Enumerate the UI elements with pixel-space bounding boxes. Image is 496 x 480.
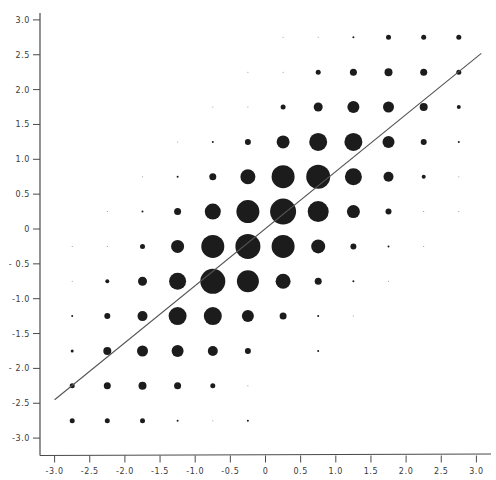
data-point bbox=[277, 135, 290, 148]
data-point bbox=[385, 68, 393, 76]
data-point bbox=[242, 310, 254, 322]
data-point bbox=[235, 234, 260, 259]
x-tick-label: 0.5 bbox=[293, 467, 308, 476]
x-axis: -3.0-2.5-2.0-1.5-1.0-0.500.51.01.52.02.5… bbox=[40, 454, 491, 476]
data-point bbox=[283, 72, 284, 73]
data-point bbox=[384, 172, 394, 182]
data-point bbox=[142, 176, 143, 177]
data-point bbox=[270, 199, 296, 225]
data-point bbox=[347, 205, 360, 218]
data-point bbox=[317, 315, 319, 317]
data-point bbox=[177, 176, 179, 178]
data-point bbox=[247, 72, 248, 73]
data-point bbox=[245, 348, 251, 354]
data-point bbox=[247, 107, 248, 108]
data-point bbox=[458, 176, 459, 177]
x-axis-line bbox=[40, 454, 491, 456]
data-point bbox=[140, 244, 145, 249]
data-point bbox=[316, 70, 321, 75]
y-tick-label: -1.0 bbox=[12, 295, 30, 304]
data-point bbox=[104, 313, 110, 319]
data-point bbox=[212, 420, 213, 421]
data-point bbox=[201, 235, 224, 258]
data-point bbox=[208, 346, 218, 356]
data-point bbox=[70, 418, 75, 423]
data-point bbox=[283, 37, 284, 38]
data-point bbox=[71, 350, 74, 353]
data-point bbox=[247, 385, 248, 386]
data-point bbox=[423, 211, 424, 212]
data-point bbox=[420, 69, 427, 76]
data-point bbox=[383, 136, 395, 148]
data-point bbox=[347, 101, 359, 113]
y-tick-label: 0 bbox=[24, 225, 30, 234]
data-point bbox=[138, 277, 147, 286]
data-point bbox=[458, 211, 459, 212]
data-point bbox=[174, 208, 181, 215]
data-point bbox=[280, 313, 287, 320]
data-point bbox=[172, 345, 184, 357]
x-tick-label: 3.0 bbox=[469, 467, 484, 476]
data-point bbox=[177, 420, 179, 422]
y-tick-label: -1.5 bbox=[12, 330, 30, 339]
data-point bbox=[240, 169, 255, 184]
data-point bbox=[388, 281, 389, 282]
data-point bbox=[344, 133, 362, 151]
data-point bbox=[107, 246, 108, 247]
y-tick-label: 2.0 bbox=[15, 86, 30, 95]
data-point bbox=[309, 133, 327, 151]
data-point bbox=[383, 102, 394, 113]
data-point bbox=[140, 418, 145, 423]
data-point bbox=[105, 418, 110, 423]
data-point bbox=[107, 211, 108, 212]
x-tick-label: -0.5 bbox=[221, 467, 239, 476]
x-tick-label: 2.0 bbox=[399, 467, 414, 476]
data-point bbox=[353, 316, 354, 317]
y-tick-label: -3.0 bbox=[12, 434, 30, 443]
data-point bbox=[205, 204, 221, 220]
x-tick-label: -2.5 bbox=[81, 467, 99, 476]
x-tick-label: 1.0 bbox=[329, 467, 344, 476]
data-point bbox=[315, 278, 322, 285]
data-point bbox=[137, 346, 148, 357]
x-tick-label: 1.5 bbox=[364, 467, 379, 476]
data-point bbox=[177, 141, 178, 142]
data-point bbox=[421, 139, 427, 145]
data-point bbox=[72, 246, 73, 247]
data-point bbox=[311, 239, 325, 253]
data-point bbox=[139, 382, 147, 390]
data-point bbox=[105, 279, 109, 283]
data-point bbox=[169, 273, 186, 290]
data-point bbox=[272, 235, 295, 258]
data-point bbox=[386, 35, 391, 40]
data-point bbox=[350, 243, 356, 249]
data-point bbox=[103, 347, 111, 355]
y-tick-label: 3.0 bbox=[15, 16, 30, 25]
data-point bbox=[386, 209, 392, 215]
data-point bbox=[422, 175, 426, 179]
x-tick-label: -2.0 bbox=[116, 467, 134, 476]
data-point bbox=[72, 281, 73, 282]
data-point bbox=[388, 245, 390, 247]
y-tick-label: 1.0 bbox=[15, 155, 30, 164]
data-point bbox=[314, 103, 323, 112]
data-point bbox=[457, 105, 461, 109]
data-point bbox=[350, 69, 357, 76]
data-point bbox=[236, 200, 259, 223]
data-point bbox=[171, 240, 184, 253]
data-point bbox=[352, 36, 354, 38]
x-tick-label: -1.0 bbox=[186, 467, 204, 476]
data-point bbox=[237, 270, 259, 292]
x-axis-ticks: -3.0-2.5-2.0-1.5-1.0-0.500.51.01.52.02.5… bbox=[46, 456, 484, 477]
data-point bbox=[281, 105, 286, 110]
data-point bbox=[212, 107, 213, 108]
y-tick-label: 0.5 bbox=[15, 190, 30, 199]
data-point bbox=[247, 420, 249, 422]
data-point bbox=[245, 139, 251, 145]
data-point bbox=[423, 246, 424, 247]
data-point bbox=[169, 307, 187, 325]
y-axis: 3.02.52.01.51.00.50- 0.5-1.0-1.5- 2.0-2.… bbox=[9, 13, 40, 456]
y-axis-ticks: 3.02.52.01.51.00.50- 0.5-1.0-1.5- 2.0-2.… bbox=[9, 16, 40, 443]
data-point bbox=[317, 350, 319, 352]
y-tick-label: - 2.0 bbox=[9, 364, 30, 373]
